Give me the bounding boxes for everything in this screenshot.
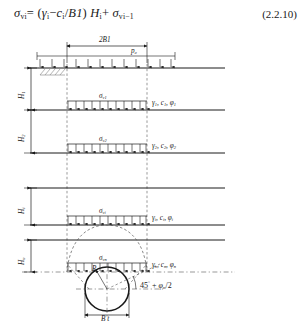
depth-dimension-h2 [24, 110, 37, 153]
surcharge-extent [37, 52, 175, 60]
figure-canvas: σvi= (γi−ci/B1) Hi+ σvi−1 (2.2.10) [0, 0, 305, 326]
stress-label-sigma-vn: σvn [99, 255, 107, 262]
surcharge-label: p₀ [131, 48, 137, 55]
top-dimension-label: 2B1 [99, 37, 111, 44]
angle-label: 45° + φn/2 [140, 281, 172, 290]
depth-label-h1: H1 [19, 92, 26, 99]
diagram-svg [0, 0, 305, 326]
soil-params-layer-1: γ1, c1, φ1 [152, 100, 176, 107]
stress-bar-layer-1 [67, 101, 147, 109]
soil-params-layer-2: γ2, c2, φ2 [152, 143, 176, 150]
depth-dimension-h1 [24, 68, 37, 110]
surcharge-arrows [40, 59, 171, 67]
stress-label-sigma-v1: σv1 [99, 93, 107, 100]
depth-dimension-hi [24, 188, 37, 225]
bottom-dimension-label: B t [101, 316, 109, 323]
soil-params-layer-n: γn, cn, φn [152, 262, 176, 269]
tunnel-radius-arrow [96, 270, 107, 289]
stress-label-sigma-v2: σv2 [99, 136, 107, 143]
ground-hatch-symbol [40, 69, 65, 75]
soil-params-layer-i: γi, ci, φi [152, 215, 173, 222]
depth-dimension-hn [24, 240, 37, 272]
depth-label-h2: H2 [19, 135, 26, 142]
stress-bar-layer-2 [67, 144, 147, 152]
depth-label-hn: Hn [19, 258, 26, 265]
wedge-boundary-lines [67, 64, 147, 272]
stress-bar-layer-i [67, 216, 147, 224]
radius-label: R [92, 266, 96, 273]
stress-label-sigma-vi: σvi [99, 208, 106, 215]
depth-label-hi: Hi [19, 208, 26, 214]
